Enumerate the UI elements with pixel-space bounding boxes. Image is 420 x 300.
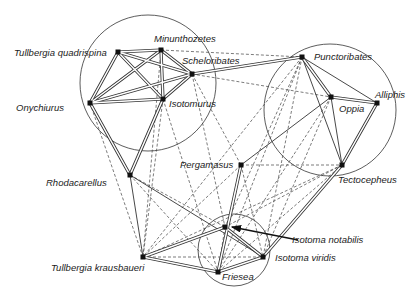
edge-dashed <box>225 165 342 227</box>
edge-dashed <box>192 74 225 227</box>
edge-dashed <box>130 175 225 227</box>
label-friesea: Friesea <box>222 271 254 282</box>
label-minunthozetes: Minunthozetes <box>154 33 216 44</box>
label-oppia: Oppia <box>339 103 364 114</box>
node-tq <box>116 50 121 55</box>
label-tullbergia-quadrispina: Tullbergia quadrispina <box>14 47 107 58</box>
edge-double-inner <box>130 99 163 175</box>
edge-solid <box>241 97 331 165</box>
node-tk <box>141 255 146 260</box>
edge-solid <box>130 175 263 257</box>
node-rh <box>128 173 133 178</box>
edge-double-inner <box>218 165 241 272</box>
label-onychiurus: Onychiurus <box>16 102 64 113</box>
node-on <box>88 101 93 106</box>
edge-double-inner <box>218 257 263 272</box>
node-te <box>340 163 345 168</box>
node-sc <box>190 72 195 77</box>
edge-dashed <box>192 74 241 165</box>
label-punctoribates: Punctoribates <box>314 51 372 62</box>
edge-dashed <box>192 74 331 97</box>
label-rhodacarellus: Rhodacarellus <box>46 177 107 188</box>
node-al <box>375 101 380 106</box>
right-cluster-circle <box>264 44 396 176</box>
label-isotoma-viridis: Isotoma viridis <box>275 252 336 263</box>
edge-solid <box>302 57 342 165</box>
node-iv <box>261 255 266 260</box>
edge-double-inner <box>302 57 331 97</box>
edge-double-inner <box>143 257 218 272</box>
node-pu <box>300 55 305 60</box>
edge-solid <box>302 57 377 103</box>
node-in <box>223 225 228 230</box>
node-pe <box>239 163 244 168</box>
label-scheloribates: Scheloribates <box>182 55 240 66</box>
label-isotomurus: Isotomurus <box>169 98 216 109</box>
edge-double-inner <box>90 103 130 175</box>
label-tullbergia-krausbaueri: Tullbergia krausbaueri <box>51 262 145 273</box>
node-mi <box>159 48 164 53</box>
network-diagram: Tullbergia quadrispina Minunthozetes Sch… <box>0 0 420 300</box>
label-pergamasus: Pergamasus <box>180 159 234 170</box>
label-tectocepheus: Tectocepheus <box>338 174 397 185</box>
label-isotoma-notabilis: Isotoma notabilis <box>292 234 364 245</box>
label-alliphis: Alliphis <box>374 89 405 100</box>
node-fr <box>216 270 221 275</box>
node-op <box>329 95 334 100</box>
node-is <box>161 97 166 102</box>
